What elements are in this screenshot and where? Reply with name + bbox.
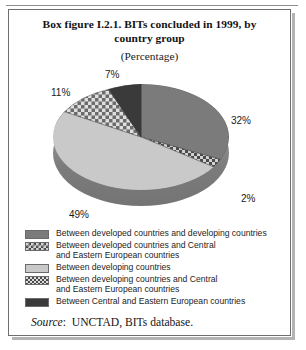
legend-label-ceec-ceec: Between Central and Eastern European cou… <box>56 296 245 306</box>
legend-label-developed-developing: Between developed countries and developi… <box>56 228 267 238</box>
legend-label-developing-ceec: Between developing countries and Central… <box>56 274 217 295</box>
figure-frame: Box figure I.2.1. BITs concluded in 1999… <box>8 9 291 336</box>
legend-swatch-developing <box>25 264 49 273</box>
pie-top-face <box>53 84 229 190</box>
source-label: Source <box>31 316 63 329</box>
pie-label-7: 7% <box>105 69 119 80</box>
box-shadow-right <box>292 13 295 338</box>
legend-item: Between developed countries and Centrala… <box>25 240 283 261</box>
pie-label-11: 11% <box>51 87 70 98</box>
legend-item: Between developing countries <box>25 262 283 273</box>
chart-legend: Between developed countries and developi… <box>25 228 283 307</box>
legend-item: Between developing countries and Central… <box>25 274 283 295</box>
source-separator: : <box>63 316 66 329</box>
pie-graphic <box>53 84 229 208</box>
legend-item: Between Central and Eastern European cou… <box>25 296 283 307</box>
legend-label-developed-ceec: Between developed countries and Centrala… <box>56 240 216 261</box>
figure-title: Box figure I.2.1. BITs concluded in 1999… <box>23 18 276 45</box>
legend-swatch-developed-developing <box>25 230 49 239</box>
legend-swatch-developing-ceec <box>25 276 49 285</box>
legend-label-developing: Between developing countries <box>56 262 171 272</box>
box-shadow-bottom <box>12 337 295 340</box>
legend-swatch-ceec-ceec <box>25 298 49 307</box>
figure-subtitle: (Percentage) <box>9 50 290 62</box>
pie-label-32: 32% <box>231 115 251 126</box>
legend-item: Between developed countries and developi… <box>25 228 283 239</box>
source-line: Source: UNCTAD, BITs database. <box>31 316 290 329</box>
legend-swatch-developed-ceec <box>25 242 49 251</box>
figure-box: Box figure I.2.1. BITs concluded in 1999… <box>0 0 306 350</box>
pie-chart: 32% 2% 49% 11% 7% <box>9 64 290 224</box>
pie-label-2: 2% <box>241 193 255 204</box>
page-top-rule <box>6 5 298 6</box>
pie-label-49: 49% <box>69 209 89 220</box>
pie-slices-svg <box>53 84 229 190</box>
source-text: UNCTAD, BITs database. <box>72 316 193 329</box>
